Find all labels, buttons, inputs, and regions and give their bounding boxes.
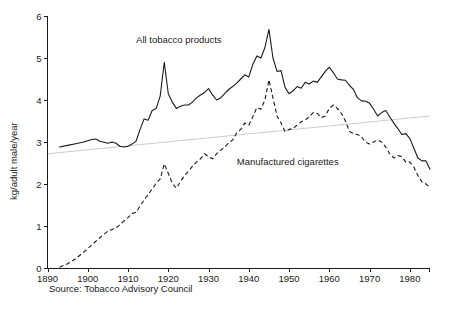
x-tick-label: 1980: [399, 273, 420, 284]
x-tick-label: 1930: [198, 273, 219, 284]
source-caption: Source: Tobacco Advisory Council: [49, 283, 192, 294]
x-tick-label: 1970: [359, 273, 380, 284]
y-tick-label: 5: [36, 53, 41, 64]
annotations-group: All tobacco products Manufactured cigare…: [136, 34, 339, 167]
y-tick-label: 2: [36, 179, 41, 190]
x-tick-label: 1940: [238, 273, 259, 284]
series-all-tobacco-products: [60, 29, 430, 169]
x-axis-ticks: 1890190019101920193019401950196019701980: [37, 268, 430, 284]
y-axis-ticks: 0123456: [36, 11, 47, 274]
y-axis-group: 0123456 kg/adult male/year: [8, 11, 48, 274]
trend-line: [48, 116, 431, 154]
label-all-tobacco-products: All tobacco products: [136, 34, 222, 45]
chart-page: 0123456 kg/adult male/year 1890190019101…: [0, 0, 457, 313]
y-tick-label: 1: [36, 221, 41, 232]
y-axis-title: kg/adult male/year: [8, 122, 19, 200]
reference-trend-line-group: [48, 116, 431, 154]
y-tick-label: 3: [36, 137, 41, 148]
series-manufactured-cigarettes: [60, 80, 430, 267]
x-axis-group: 1890190019101920193019401950196019701980: [37, 268, 430, 284]
y-tick-label: 4: [36, 95, 41, 106]
y-tick-label: 6: [36, 11, 41, 22]
label-manufactured-cigarettes: Manufactured cigarettes: [237, 156, 339, 167]
x-tick-label: 1960: [319, 273, 340, 284]
x-tick-label: 1950: [279, 273, 300, 284]
y-tick-label: 0: [36, 263, 41, 274]
series-group: [60, 29, 430, 267]
tobacco-consumption-chart: 0123456 kg/adult male/year 1890190019101…: [0, 0, 457, 313]
